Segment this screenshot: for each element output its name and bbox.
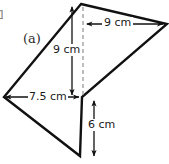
polygon-outline xyxy=(4,4,167,156)
geometry-figure-svg xyxy=(0,0,169,164)
geometry-figure-container: (a) 9 cm 9 cm 7.5 cm 6 cm 1 xyxy=(0,0,169,164)
dimension-label-bottom-vertical: 6 cm xyxy=(87,119,116,131)
dimension-label-top-horizontal: 9 cm xyxy=(102,17,133,29)
dimension-label-side-slant: 9 cm xyxy=(52,44,81,56)
polygon-path xyxy=(4,4,167,156)
clipped-margin-number: 1 xyxy=(0,8,3,22)
part-label-a: (a) xyxy=(23,31,41,46)
dimension-label-base-horizontal: 7.5 cm xyxy=(28,91,68,103)
